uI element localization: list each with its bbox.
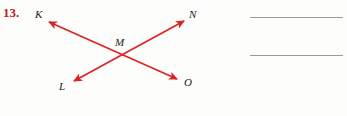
point-label-o: O [184, 77, 192, 88]
point-label-n: N [189, 9, 196, 20]
worksheet-page: 13. K N M L O [0, 0, 347, 116]
line-k-to-o [49, 22, 177, 79]
point-label-k: K [35, 9, 42, 20]
line-l-to-n [74, 21, 184, 81]
point-label-l: L [59, 81, 65, 92]
answer-line-2[interactable] [250, 55, 343, 56]
point-label-m: M [115, 37, 124, 48]
answer-line-1[interactable] [250, 17, 343, 18]
